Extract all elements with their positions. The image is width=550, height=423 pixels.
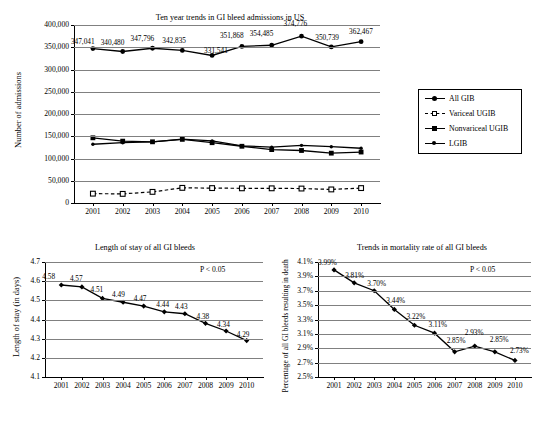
y-tick-label: 4.7 [31,258,41,266]
data-label: 362,467 [349,28,373,35]
x-tick-label: 2002 [109,208,137,216]
y-tick-label: 4.5 [31,296,41,304]
y-tick-label: 4.1 [31,373,41,381]
data-label: 3.22% [406,313,425,320]
gridline [74,181,380,182]
figure-root: Ten year trends in GI bleed admissions i… [0,0,550,423]
legend-label: LGIB [449,139,467,148]
y-tick-label: 2.9% [297,344,313,352]
data-label: 4.34 [217,321,230,328]
data-label: 351,868 [220,32,244,39]
data-label: 4.57 [70,275,83,282]
data-label: 347,041 [71,38,95,45]
gridline [74,92,380,93]
chart-title-admissions: Ten year trends in GI bleed admissions i… [80,13,380,22]
y-tick-label: 3.7% [297,287,313,295]
x-tick-label: 2004 [168,208,196,216]
data-label: 331,541 [204,47,228,54]
data-label: 3.70% [367,280,386,287]
legend-label: All GIB [449,94,474,103]
chart-title-mortality: Trends in mortality rate of all GI bleed… [302,243,542,252]
gridline [74,136,380,137]
x-tick-label: 2007 [258,208,286,216]
y-tick-label: 0 [65,199,69,207]
gridline [74,159,380,160]
y-tick-label: 300,000 [44,66,69,74]
legend-key-variceal-ugib [425,109,445,118]
gridline [45,339,263,340]
gridline-top [45,262,263,263]
data-label: 3.99% [318,259,337,266]
gridline [74,70,380,71]
data-label: 4.51 [91,286,104,293]
y-axis-label-admissions: Number of admissions [14,20,23,200]
data-label: 4.47 [134,295,147,302]
y-tick-label: 3.5% [297,301,313,309]
data-label: 3.11% [429,321,448,328]
y-tick-label: 2.5% [297,373,313,381]
y-tick-label: 4.6 [31,277,41,285]
legend-key-all-gib [425,94,445,103]
x-tick-label: 2003 [139,208,167,216]
y-tick-label: 3.9% [297,272,313,280]
data-label: 342,835 [162,37,186,44]
y-tick-label: 100,000 [44,155,69,163]
gridline [74,114,380,115]
data-label: 340,480 [101,39,125,46]
data-label: 3.81% [345,272,364,279]
y-tick-label: 4.1% [297,258,313,266]
y-tick-label: 150,000 [44,132,69,140]
x-tick-label: 2008 [288,208,316,216]
y-axis-label-length-of-stay: Length of stay (in days) [12,252,21,382]
legend-item-all-gib[interactable]: All GIB [425,94,474,103]
legend-label: Variceal UGIB [449,109,496,118]
data-label: 2.85% [447,337,466,344]
data-label: 2.73% [510,347,529,354]
panel-length-of-stay: Length of stay of all GI bleeds Length o… [0,240,275,423]
y-tick-label: 4.3 [31,335,41,343]
data-label: 4.43 [175,303,188,310]
data-label: 347,796 [131,35,155,42]
y-tick-label: 4.4 [31,316,41,324]
data-label: 374,776 [284,20,308,27]
x-tick-label: 2009 [317,208,345,216]
data-label: 4.44 [156,301,169,308]
panel-admissions: Ten year trends in GI bleed admissions i… [0,0,550,232]
gridline [45,300,263,301]
y-tick-label: 4.2 [31,354,41,362]
data-label: 2.93% [465,329,484,336]
y-axis-label-mortality: Percentage of all GI bleeds resulting in… [281,237,290,415]
legend-key-nonvariceal-ugib [425,124,445,133]
data-label: 3.44% [386,297,405,304]
gridline [45,320,263,321]
legend-item-variceal-ugib[interactable]: Variceal UGIB [425,109,496,118]
y-tick-label: 2.7% [297,359,313,367]
legend-item-nonvariceal-ugib[interactable]: Nonvariceal UGIB [425,124,508,133]
y-tick-label: 400,000 [44,21,69,29]
gridline [318,305,531,306]
x-tick-label: 2001 [79,208,107,216]
legend: All GIB Variceal UGIB Nonvariceal UGIB L… [418,89,522,154]
data-label: 2.85% [490,336,509,343]
gridline [318,291,531,292]
y-tick-label: 3.3% [297,316,313,324]
chart-title-length-of-stay: Length of stay of all GI bleeds [30,243,260,252]
y-tick-label: 50,000 [48,177,69,185]
x-tick-label: 2010 [501,382,529,390]
x-tick-label: 2005 [198,208,226,216]
legend-item-lgib[interactable]: LGIB [425,139,467,148]
x-tick-label: 2006 [228,208,256,216]
y-tick-label: 350,000 [44,43,69,51]
data-label: 4.29 [237,331,250,338]
gridline [45,358,263,359]
gridline [318,348,531,349]
gridline [318,363,531,364]
y-tick-label: 200,000 [44,110,69,118]
legend-label: Nonvariceal UGIB [449,124,508,133]
y-tick-label: 3.1% [297,330,313,338]
y-tick-label: 250,000 [44,88,69,96]
gridline-top [318,262,531,263]
panel-mortality: Trends in mortality rate of all GI bleed… [272,240,550,423]
data-label: 354,485 [250,30,274,37]
data-label: 4.58 [42,273,55,280]
